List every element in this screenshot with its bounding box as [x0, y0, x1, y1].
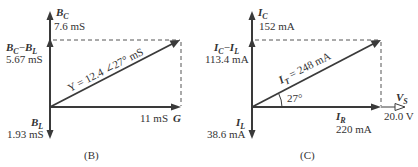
g-label: G: [173, 112, 181, 124]
vs-value: 20.0 V: [384, 110, 414, 122]
bl-value: 1.93 mS: [7, 128, 44, 140]
panel-c: 27° IC 152 mA IC−IL 113.4 mA IL 38.6 mA …: [205, 6, 414, 162]
vs-label: VS: [396, 91, 408, 106]
ic-arrowhead-icon: [249, 11, 256, 20]
ir-value: 220 mA: [336, 123, 372, 135]
phasor-diagrams: BC 7.6 mS BC−BL 5.67 mS BL 1.93 mS 11 mS…: [0, 0, 418, 167]
il-arrowhead-icon: [249, 130, 256, 139]
panel-b: BC 7.6 mS BC−BL 5.67 mS BL 1.93 mS 11 mS…: [5, 6, 181, 162]
g-value: 11 mS: [140, 112, 168, 124]
bc-value: 7.6 mS: [54, 20, 85, 32]
bl-arrowhead-icon: [47, 130, 54, 139]
angle-label: 27°: [287, 92, 302, 104]
angle-arc: [279, 93, 282, 107]
ir-arrowhead-icon: [371, 104, 381, 111]
it-vector: [252, 44, 373, 107]
il-value: 38.6 mA: [207, 128, 246, 140]
y-label: Y = 12.4 ∠27° mS: [65, 45, 145, 94]
ic-il-value: 113.4 mA: [205, 53, 249, 65]
bc-bl-arrowhead-icon: [47, 38, 54, 47]
ic-il-arrowhead-icon: [249, 38, 256, 47]
caption-b: (B): [84, 149, 99, 162]
g-arrowhead-icon: [171, 104, 181, 111]
caption-c: (C): [300, 149, 315, 162]
bc-label: BC: [55, 6, 69, 21]
ic-value: 152 mA: [259, 20, 295, 32]
y-vector: [50, 44, 172, 107]
bc-arrowhead-icon: [47, 11, 54, 20]
bc-bl-value: 5.67 mS: [6, 53, 43, 65]
ic-label: IC: [257, 6, 268, 21]
